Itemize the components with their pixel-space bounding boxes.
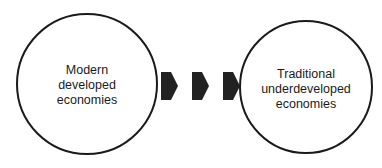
right-circle-label: Traditional underdeveloped economies bbox=[251, 67, 361, 112]
arrow-icon-3 bbox=[223, 72, 240, 100]
arrow-icon-1 bbox=[161, 72, 178, 100]
arrow-icon-2 bbox=[192, 72, 209, 100]
left-circle-label: Modern developed economies bbox=[37, 63, 137, 108]
